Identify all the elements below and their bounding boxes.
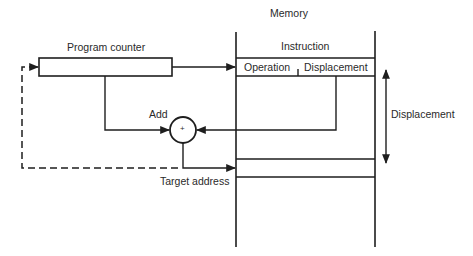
instruction-label: Instruction: [281, 41, 329, 52]
operation-field-label: Operation: [244, 62, 290, 73]
pc-to-adder-arrow: [105, 76, 169, 130]
target-address-cell: [236, 159, 375, 177]
displacement-span-label: Displacement: [391, 109, 455, 120]
program-counter-label: Program counter: [67, 42, 145, 53]
plus-icon: +: [180, 125, 185, 133]
displacement-field-label: Displacement: [304, 62, 368, 73]
memory-label: Memory: [270, 8, 308, 19]
displacement-to-adder-arrow: [197, 76, 336, 130]
add-label: Add: [149, 109, 168, 120]
program-counter-box: [39, 58, 172, 76]
pc-relative-addressing-diagram: Memory Instruction Operation Displacemen…: [0, 0, 473, 256]
adder-to-target-arrow: [183, 143, 235, 168]
target-address-label: Target address: [160, 176, 229, 187]
diagram-canvas: [0, 0, 473, 256]
